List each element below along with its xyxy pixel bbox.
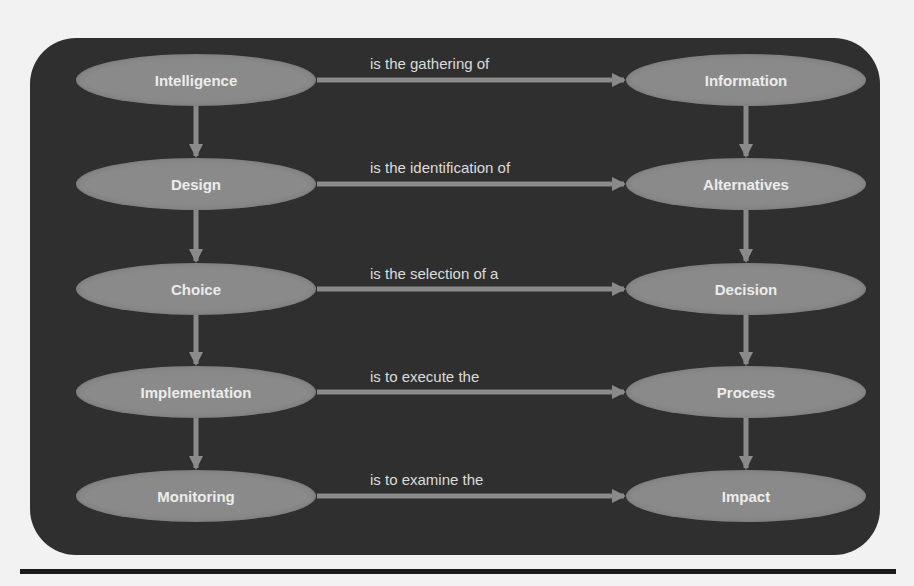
node-process: Process [626,366,866,418]
node-intelligence: Intelligence [76,54,316,106]
diagram-panel: Intelligence Design Choice Implementatio… [30,38,880,555]
node-label: Implementation [141,384,252,401]
node-monitoring: Monitoring [76,470,316,522]
node-alternatives: Alternatives [626,158,866,210]
relation-label: is the selection of a [370,265,498,282]
node-label: Process [717,384,775,401]
node-label: Design [171,176,221,193]
node-label: Monitoring [157,488,234,505]
horizontal-arrows [317,80,624,496]
node-label: Intelligence [155,72,238,89]
faint-background-text [0,0,914,20]
node-choice: Choice [76,263,316,315]
node-design: Design [76,158,316,210]
bottom-rule-divider [20,569,896,574]
node-label: Choice [171,281,221,298]
node-label: Information [705,72,788,89]
node-implementation: Implementation [76,366,316,418]
relation-label: is the gathering of [370,55,489,72]
node-impact: Impact [626,470,866,522]
node-label: Decision [715,281,778,298]
relation-label: is the identification of [370,159,510,176]
relation-label: is to examine the [370,471,483,488]
node-information: Information [626,54,866,106]
node-label: Alternatives [703,176,789,193]
node-label: Impact [722,488,770,505]
relation-label: is to execute the [370,368,479,385]
node-decision: Decision [626,263,866,315]
